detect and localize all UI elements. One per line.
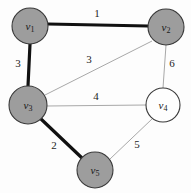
node-label-subscript-v2: 2 — [166, 26, 170, 35]
edge-weight-v1-v3: 3 — [15, 57, 21, 69]
edge-v2-v3 — [45, 41, 152, 95]
edge-v3-v5 — [41, 119, 82, 158]
node-v5[interactable]: v5 — [77, 152, 113, 188]
graph-figure: v1v2v3v4v5 1336425 — [0, 0, 191, 193]
edge-v3-v4 — [47, 105, 146, 106]
node-label-subscript-v1: 1 — [30, 25, 34, 34]
node-v2[interactable]: v2 — [148, 9, 184, 45]
node-v3[interactable]: v3 — [9, 86, 47, 124]
edge-weight-v3-v4: 4 — [93, 90, 99, 102]
edge-v2-v4 — [163, 45, 166, 88]
node-label-subscript-v4: 4 — [163, 104, 167, 113]
edge-v4-v5 — [110, 119, 152, 159]
edge-weight-v2-v4: 6 — [169, 57, 175, 69]
edge-weight-v2-v3: 3 — [86, 53, 92, 65]
node-label-subscript-v5: 5 — [95, 169, 99, 178]
node-v4[interactable]: v4 — [146, 88, 180, 122]
node-v1[interactable]: v1 — [12, 8, 48, 44]
edge-weight-v4-v5: 5 — [134, 138, 140, 150]
edge-v1-v3 — [28, 44, 30, 86]
edge-weight-v3-v5: 2 — [51, 139, 57, 151]
edge-weight-v1-v2: 1 — [94, 7, 100, 19]
edge-v1-v2 — [48, 24, 148, 26]
graph-canvas: v1v2v3v4v5 1336425 — [0, 0, 191, 193]
node-label-subscript-v3: 3 — [28, 104, 32, 113]
